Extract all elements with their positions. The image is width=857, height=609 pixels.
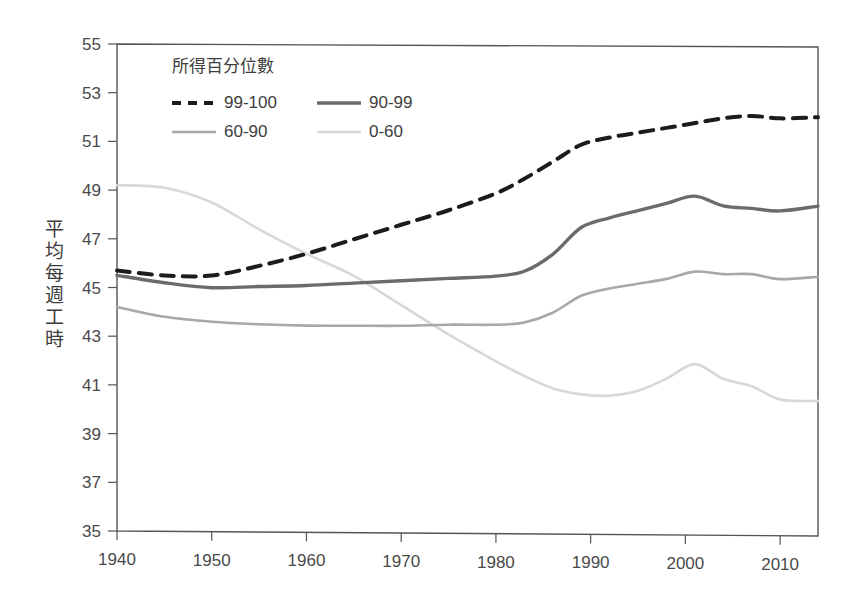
x-tick-label: 1980: [477, 553, 515, 572]
y-tick-label: 55: [82, 35, 101, 54]
x-tick-label: 1970: [382, 552, 420, 571]
legend-label-99-100: 99-100: [224, 93, 277, 112]
y-tick-label: 53: [82, 84, 101, 103]
x-tick-label: 2000: [666, 554, 704, 573]
y-axis-title-char: 週: [41, 284, 67, 306]
y-tick-label: 47: [82, 230, 101, 249]
chart-container: 3537394143454749515355 19401950196019701…: [0, 0, 857, 609]
y-axis-title: 平均每週工時: [41, 218, 67, 350]
y-axis-title-char: 均: [41, 240, 67, 262]
y-tick-label: 45: [82, 279, 101, 298]
y-axis-title-char: 工: [41, 306, 67, 328]
y-tick-label: 51: [82, 132, 101, 151]
y-tick-label: 49: [82, 181, 101, 200]
legend-title: 所得百分位數: [172, 56, 274, 76]
y-axis-title-char: 平: [41, 218, 67, 240]
x-tick-label: 1960: [288, 551, 326, 570]
x-tick-label: 1950: [193, 551, 231, 570]
y-tick-label: 37: [82, 473, 101, 492]
x-tick-label: 1990: [572, 553, 610, 572]
x-tick-label: 1940: [98, 550, 136, 569]
x-tick-label: 2010: [761, 555, 799, 574]
chart-background: [0, 0, 857, 609]
y-tick-label: 41: [82, 376, 101, 395]
legend-label-0-60: 0-60: [369, 122, 403, 141]
y-axis-title-char: 每: [41, 262, 67, 284]
legend-label-60-90: 60-90: [224, 122, 267, 141]
y-axis-title-char: 時: [41, 328, 67, 350]
line-chart: 3537394143454749515355 19401950196019701…: [0, 0, 857, 609]
y-tick-label: 39: [82, 425, 101, 444]
y-tick-label: 35: [82, 522, 101, 541]
y-tick-label: 43: [82, 327, 101, 346]
legend-label-90-99: 90-99: [369, 93, 412, 112]
